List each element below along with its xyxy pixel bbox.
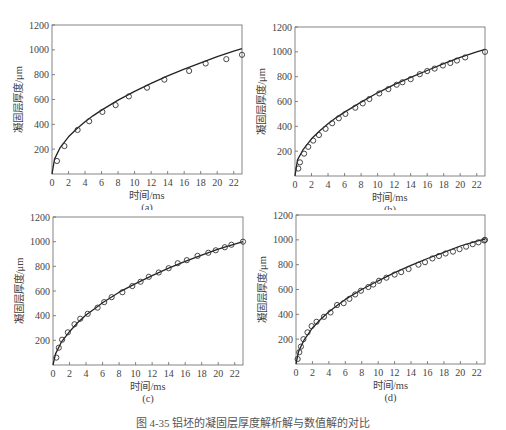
data-point-marker [113,102,118,107]
y-tick-label: 600 [35,286,50,297]
x-tick-label: 22 [229,177,239,188]
panel-label: (c) [142,393,154,405]
y-tick-label: 200 [34,144,49,155]
x-tick-label: 22 [230,368,240,379]
x-tick-label: 12 [389,179,399,190]
data-point-marker [301,151,306,156]
figure-caption: 图 4-35 铝坯的凝固层厚度解析解与数值解的对比 [0,414,506,430]
x-tick-label: 14 [164,368,174,379]
y-axis-label: 凝固层厚度/μm [255,68,267,135]
y-tick-label: 400 [278,309,293,320]
y-tick-label: 600 [277,96,292,107]
x-tick-label: 4 [83,177,88,188]
data-point-marker [297,160,302,165]
x-tick-label: 6 [100,368,105,379]
y-tick-label: 800 [34,69,49,80]
y-tick-label: 600 [34,94,49,105]
analytic-curve [295,49,485,176]
x-tick-label: 12 [390,367,400,378]
data-point-marker [54,158,59,163]
x-tick-label: 0 [51,368,56,379]
analytic-curve [53,242,243,365]
data-point-marker [224,57,229,62]
x-tick-label: 18 [439,179,449,190]
data-point-marker [457,247,462,252]
x-tick-label: 6 [99,177,104,188]
x-tick-label: 10 [373,367,383,378]
x-tick-label: 22 [472,179,482,190]
x-tick-label: 8 [359,367,364,378]
analytic-curve [52,49,242,174]
y-axis-label: 凝固层厚度/μm [12,66,24,133]
x-tick-label: 10 [373,179,383,190]
chart-panel-b: 024681012141618202220040060080010001200时… [253,0,506,210]
y-tick-label: 800 [278,259,293,270]
x-tick-label: 22 [472,367,482,378]
x-axis-label: 时间/ms [130,380,165,392]
plot-frame [296,215,485,364]
x-tick-label: 16 [179,177,189,188]
x-tick-label: 0 [50,177,55,188]
x-tick-label: 20 [455,179,465,190]
x-tick-label: 8 [116,177,121,188]
x-tick-label: 16 [422,179,432,190]
x-tick-label: 12 [146,177,156,188]
chart-b: 024681012141618202220040060080010001200时… [253,0,506,210]
data-point-marker [187,68,192,73]
x-tick-label: 20 [213,368,223,379]
x-tick-label: 14 [406,367,416,378]
y-tick-label: 1000 [273,234,293,245]
data-point-marker [311,138,316,143]
x-tick-label: 2 [310,367,315,378]
x-tick-label: 2 [66,177,71,188]
data-point-marker [406,266,411,271]
chart-panel-a: 024681012141618202220040060080010001200时… [0,0,253,210]
x-tick-label: 2 [309,179,314,190]
x-tick-label: 20 [455,367,465,378]
x-tick-label: 2 [67,368,72,379]
y-tick-label: 600 [278,284,293,295]
x-tick-label: 0 [293,179,298,190]
x-tick-label: 18 [439,367,449,378]
data-point-marker [422,260,427,265]
y-tick-label: 400 [34,119,49,130]
x-tick-label: 18 [196,177,206,188]
y-tick-label: 1200 [272,22,292,33]
x-tick-label: 4 [326,367,331,378]
x-tick-label: 14 [406,179,416,190]
data-point-marker [323,126,328,131]
data-point-marker [62,143,67,148]
y-tick-label: 400 [277,121,292,132]
y-axis-label: 凝固层厚度/μm [256,256,268,323]
x-tick-label: 16 [180,368,190,379]
y-tick-label: 200 [35,335,50,346]
y-tick-label: 800 [35,261,50,272]
x-tick-label: 16 [422,367,432,378]
y-tick-label: 1200 [29,20,49,31]
panel-label: (d) [384,392,397,404]
y-tick-label: 1200 [273,210,293,221]
data-point-marker [306,144,311,149]
x-tick-label: 10 [130,177,140,188]
x-tick-label: 20 [212,177,222,188]
x-tick-label: 8 [359,179,364,190]
x-tick-label: 0 [294,367,299,378]
plot-frame [52,25,242,174]
analytic-curve [296,239,485,364]
y-tick-label: 200 [277,146,292,157]
y-axis-label: 凝固层厚度/μm [13,258,25,325]
y-tick-label: 1000 [272,46,292,57]
chart-panel-d: 024681012141618202220040060080010001200时… [253,190,506,405]
y-tick-label: 1000 [29,44,49,55]
x-tick-label: 6 [343,367,348,378]
y-tick-label: 1200 [30,212,50,223]
plot-frame [53,217,243,365]
data-point-marker [450,249,455,254]
chart-a: 024681012141618202220040060080010001200时… [0,0,253,210]
x-tick-label: 12 [147,368,157,379]
x-tick-label: 14 [163,177,173,188]
data-point-marker [316,132,321,137]
y-tick-label: 200 [278,334,293,345]
x-tick-label: 4 [84,368,89,379]
chart-d: 024681012141618202220040060080010001200时… [253,190,506,405]
